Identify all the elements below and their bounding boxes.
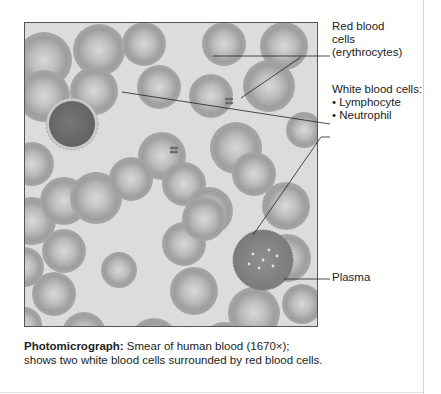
figure-caption: Photomicrograph: Smear of human blood (1… <box>24 340 324 367</box>
wbc-heading: White blood cells: <box>332 83 422 96</box>
blood-smear-micrograph <box>24 22 318 327</box>
label-white-blood-cells: White blood cells: • Lymphocyte • Neutro… <box>332 83 422 122</box>
figure-page: Red blood cells (erythrocytes) White blo… <box>0 0 441 394</box>
label-red-blood-cells: Red blood cells (erythrocytes) <box>332 20 402 59</box>
label-neutrophil: • Neutrophil <box>332 109 422 122</box>
page-margin-rule <box>423 0 424 394</box>
label-line: cells <box>332 33 402 46</box>
label-plasma: Plasma <box>332 271 370 284</box>
label-line: (erythrocytes) <box>332 46 402 59</box>
page-bottom-rule <box>0 392 424 393</box>
label-lymphocyte: • Lymphocyte <box>332 96 422 109</box>
label-line: Red blood <box>332 20 402 33</box>
caption-title: Photomicrograph: <box>24 340 124 352</box>
